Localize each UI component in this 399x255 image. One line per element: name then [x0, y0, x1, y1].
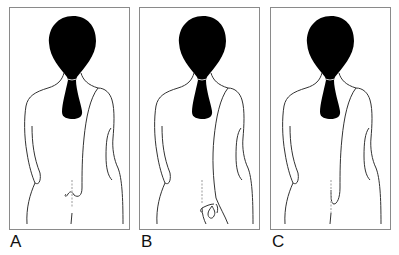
figure-a-illustration	[10, 8, 131, 231]
hair-icon	[179, 16, 226, 119]
panel-label-a: A	[10, 233, 21, 251]
hair-icon	[307, 16, 354, 119]
panel-b	[139, 7, 260, 230]
hair-icon	[49, 16, 96, 119]
panel-label-b: B	[141, 233, 152, 251]
panel-label-c: C	[272, 233, 284, 251]
figure-b-illustration	[140, 8, 261, 231]
panel-c	[270, 7, 391, 230]
panel-a	[9, 7, 130, 230]
figure-c-illustration	[271, 8, 392, 231]
